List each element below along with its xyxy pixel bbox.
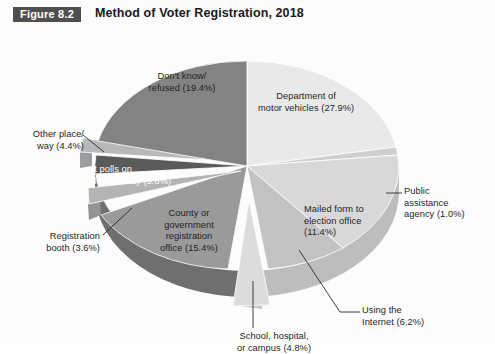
figure-header: Figure 8.2 Method of Voter Registration,… [0,0,495,30]
slice-label-school-hospital-or-campus: School, hospital, or campus (4.8%) [210,331,338,354]
pie-chart: Department of motor vehicles (27.9%) Don… [0,28,495,345]
slice-label-using-the-internet: Using the Internet (6.2%) [362,305,424,328]
slice-label-other-place-way: Other place/ way (4.4%) [8,129,84,152]
slice-label-dont-know-refused: Don't know/ refused (19.4%) [128,71,236,94]
figure-title: Method of Voter Registration, 2018 [95,6,304,20]
slice-label-mailed-form-to-election-office: Mailed form to election office (11.4%) [304,204,364,239]
figure-number-badge: Figure 8.2 [13,7,81,22]
slice-label-county-or-government-registration-office: County or government registration office… [141,208,237,254]
slice-label-public-assistance-agency: Public assistance agency (1.0%) [404,186,465,221]
slice-label-at-polls-on-election-day: At polls on Election Day (5.8%) [88,164,171,187]
slice-label-registration-booth: Registration booth (3.6%) [6,231,100,254]
slice-label-department-of-motor-vehicles: Department of motor vehicles (27.9%) [258,91,354,114]
